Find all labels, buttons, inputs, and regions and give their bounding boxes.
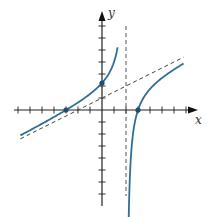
function-graph: x y <box>0 0 214 217</box>
x-axis-label: x <box>195 113 202 127</box>
intercept-point <box>63 107 68 112</box>
intercept-point <box>99 80 104 85</box>
intercept-point <box>135 107 140 112</box>
y-axis-arrow-icon <box>99 11 106 21</box>
curve-right-branch <box>127 63 184 217</box>
y-axis-label: y <box>107 6 115 20</box>
